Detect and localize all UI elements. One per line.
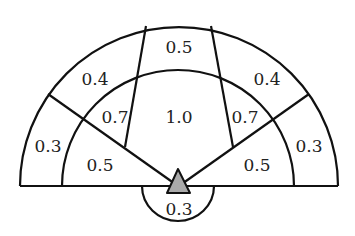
zone-diagram: 0.5 0.4 0.4 0.3 0.3 0.7 1.0 0.7 0.5 0.5 … [0,0,355,236]
zone-label-inner-lower-left: 0.5 [86,155,113,175]
zone-label-rear: 0.3 [165,199,192,219]
zone-label-inner-upper-left: 0.7 [101,107,128,127]
zone-label-outer-left: 0.3 [34,136,61,156]
zone-label-inner-lower-right: 0.5 [243,155,270,175]
right-divider [211,26,233,147]
zone-label-inner-upper-right: 0.7 [231,107,258,127]
zone-label-outer-upper-right: 0.4 [253,69,280,89]
zone-label-outer-upper-left: 0.4 [81,69,108,89]
zone-label-inner-center: 1.0 [165,107,192,127]
left-divider [125,26,146,147]
diagram-canvas: 0.5 0.4 0.4 0.3 0.3 0.7 1.0 0.7 0.5 0.5 … [0,0,355,236]
zone-label-outer-top: 0.5 [165,37,192,57]
zone-label-outer-right: 0.3 [295,136,322,156]
